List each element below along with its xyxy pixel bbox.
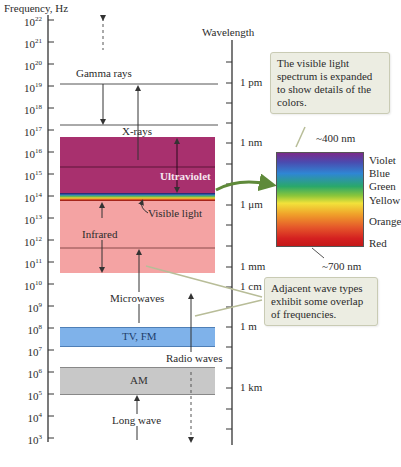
freq-tick-1e8: 108: [6, 321, 42, 336]
infrared-label: Infrared: [82, 228, 117, 240]
spectrum-400nm-label: ~400 nm: [316, 132, 355, 144]
freq-tick-1e13: 1013: [6, 211, 42, 226]
visible-spectrum-bar: [276, 152, 364, 247]
wavelength-label-1cm: 1 cm: [240, 280, 262, 292]
freq-tick-1e20: 1020: [6, 57, 42, 72]
freq-tick-1e10: 1010: [6, 277, 42, 292]
wavelength-label-1km: 1 km: [240, 381, 262, 393]
am-label: AM: [130, 374, 148, 386]
gamma-rays-label: Gamma rays: [74, 67, 134, 79]
freq-tick-1e3: 103: [6, 431, 42, 446]
freq-tick-1e21: 1021: [6, 35, 42, 50]
freq-tick-1e5: 105: [6, 387, 42, 402]
spectrum-color-yellow: Yellow: [369, 194, 400, 206]
freq-tick-1e7: 107: [6, 343, 42, 358]
freq-tick-1e6: 106: [6, 365, 42, 380]
freq-tick-1e17: 1017: [6, 123, 42, 138]
freq-tick-1e9: 109: [6, 299, 42, 314]
radio-waves-label: Radio waves: [166, 352, 223, 364]
overlap-callout: Adjacent wave types exhibit some overlap…: [264, 277, 378, 326]
freq-tick-1e12: 1012: [6, 233, 42, 248]
wavelength-label-1mm: 1 mm: [240, 260, 265, 272]
wavelength-label-1um: 1 μm: [240, 198, 263, 210]
wavelength-label-1m: 1 m: [240, 320, 257, 332]
spectrum-color-red: Red: [369, 237, 387, 249]
freq-tick-1e14: 1014: [6, 189, 42, 204]
spectrum-color-violet: Violet: [369, 154, 396, 166]
spectrum-700nm-label: ~700 nm: [322, 260, 361, 272]
long-wave-label: Long wave: [112, 414, 161, 426]
freq-tick-1e4: 104: [6, 409, 42, 424]
wavelength-label-1nm: 1 nm: [240, 136, 262, 148]
spectrum-color-green: Green: [369, 180, 396, 192]
microwaves-label: Microwaves: [110, 292, 164, 304]
tv-fm-label: TV, FM: [122, 330, 157, 342]
visible-light-label: Visible light: [148, 207, 202, 219]
visible-spectrum-callout: The visible light spectrum is expanded t…: [270, 52, 390, 114]
ultraviolet-label: Ultraviolet: [160, 170, 211, 182]
spectrum-color-orange: Orange: [369, 215, 401, 227]
wavelength-label-1pm: 1 pm: [240, 76, 262, 88]
freq-tick-1e18: 1018: [6, 101, 42, 116]
spectrum-color-blue: Blue: [369, 167, 390, 179]
freq-tick-1e19: 1019: [6, 79, 42, 94]
freq-tick-1e11: 1011: [6, 255, 42, 270]
freq-tick-1e22: 1022: [6, 13, 42, 28]
freq-tick-1e16: 1016: [6, 145, 42, 160]
x-rays-label: X-rays: [122, 125, 152, 137]
freq-tick-1e15: 1015: [6, 167, 42, 182]
